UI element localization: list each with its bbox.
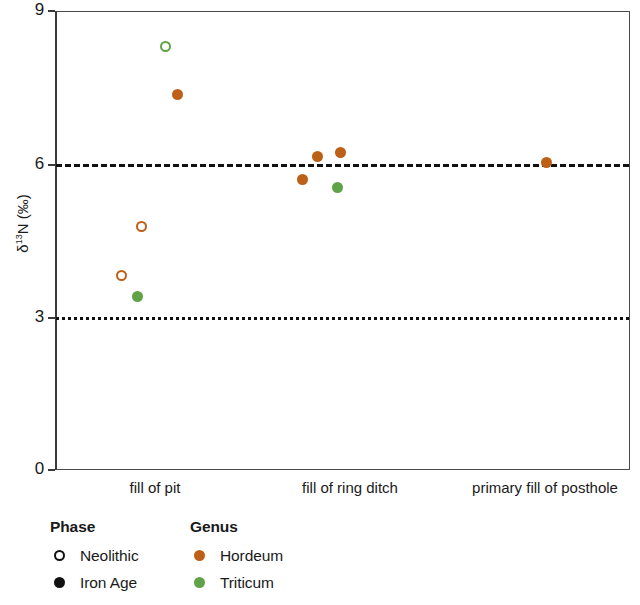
plot-area <box>55 11 630 470</box>
legend-marker-triticum <box>190 577 214 588</box>
legend-label-iron-age: Iron Age <box>74 574 137 592</box>
y-tick-label-9: 9 <box>4 0 44 20</box>
legend-item-hordeum: Hordeum <box>190 542 283 569</box>
y-tick-9 <box>48 10 55 12</box>
legend-label-neolithic: Neolithic <box>74 547 139 565</box>
y-axis-line <box>55 11 57 470</box>
y-axis-title-delta: δ <box>14 244 31 252</box>
y-tick-0 <box>48 469 55 471</box>
y-axis-title-unit: N (‰) <box>14 194 31 234</box>
y-tick-3 <box>48 317 55 319</box>
point-hordeum-ironage-6-05 <box>541 157 552 168</box>
legend-label-hordeum: Hordeum <box>214 547 283 565</box>
filled-circle-icon-orange <box>194 550 205 561</box>
legend-marker-iron-age <box>50 577 74 588</box>
y-tick-label-0: 0 <box>4 459 44 479</box>
point-hordeum-ironage-5-72 <box>297 174 308 185</box>
legend-item-neolithic: Neolithic <box>50 542 139 569</box>
reference-line-dotted-3 <box>56 317 629 320</box>
y-tick-label-3: 3 <box>4 307 44 327</box>
point-triticum-ironage-5-56 <box>332 182 343 193</box>
legend-title-phase: Phase <box>50 518 139 536</box>
point-triticum-ironage-3-42 <box>132 291 143 302</box>
point-hordeum-ironage-6-17 <box>312 151 323 162</box>
point-hordeum-neolithic-4-79 <box>136 221 147 232</box>
point-hordeum-neolithic-3-83 <box>116 270 127 281</box>
legend-item-iron-age: Iron Age <box>50 569 139 596</box>
legend-title-genus: Genus <box>190 518 283 536</box>
scatter-chart-figure: 9 6 3 0 δ13N (‰) fill of pit fill of rin… <box>0 0 640 605</box>
y-axis-title: δ13N (‰) <box>14 154 31 294</box>
filled-circle-icon-green <box>194 577 205 588</box>
legend-marker-hordeum <box>190 550 214 561</box>
chart-legend: Phase Neolithic Iron Age Genus Hor <box>50 518 470 600</box>
point-hordeum-ironage-6-25 <box>335 147 346 158</box>
point-hordeum-ironage-7-39 <box>172 89 183 100</box>
open-circle-icon <box>54 550 65 561</box>
legend-group-genus: Genus Hordeum Triticum <box>190 518 283 596</box>
x-axis-label-fill-of-pit: fill of pit <box>130 479 181 496</box>
legend-group-phase: Phase Neolithic Iron Age <box>50 518 139 596</box>
legend-label-triticum: Triticum <box>214 574 274 592</box>
filled-circle-icon <box>54 577 65 588</box>
point-triticum-neolithic-8-33 <box>160 41 171 52</box>
y-tick-6 <box>48 164 55 166</box>
legend-marker-neolithic <box>50 550 74 561</box>
legend-item-triticum: Triticum <box>190 569 283 596</box>
x-axis-label-primary-fill-of-posthole: primary fill of posthole <box>472 479 618 496</box>
y-axis-title-superscript: 13 <box>14 234 24 244</box>
x-axis-label-fill-of-ring-ditch: fill of ring ditch <box>302 479 398 496</box>
